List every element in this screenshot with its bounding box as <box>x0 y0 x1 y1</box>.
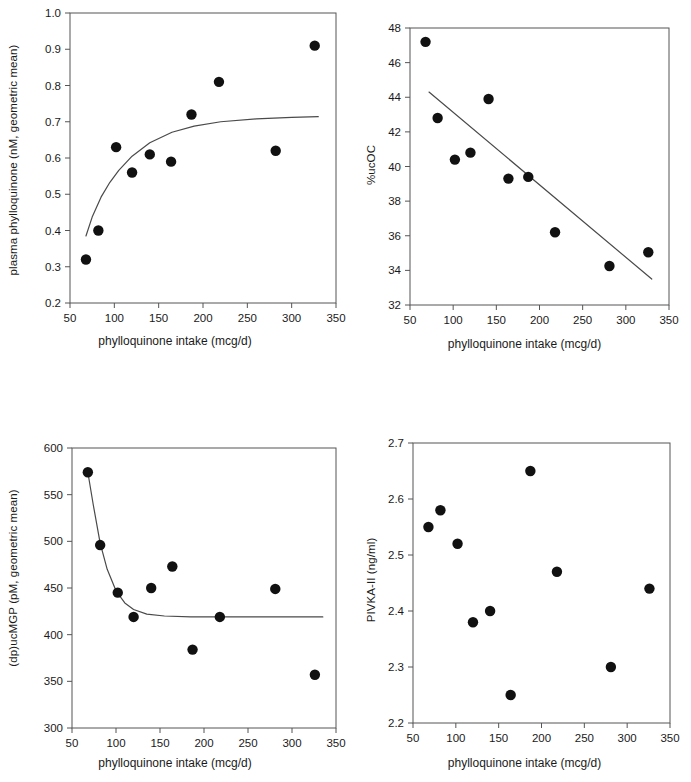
data-point <box>166 156 176 166</box>
panel-a-plot: 501001502002503003500.20.30.40.50.60.70.… <box>0 0 350 330</box>
panel-b-xtick-label: 350 <box>659 314 678 326</box>
panel-d-ytick-label: 2.7 <box>388 437 404 449</box>
panel-d-ytick-label: 2.5 <box>388 549 404 561</box>
panel-c-ylabel: (dp)ucMGP (pM, geometric mean) <box>7 489 19 666</box>
data-point <box>644 583 654 593</box>
panel-c-fit-curve <box>88 472 323 617</box>
panel-b-ytick-label: 46 <box>388 57 401 69</box>
panel-b-ylabel-container: %ucOC <box>360 110 382 220</box>
data-point <box>452 539 462 549</box>
data-point <box>550 227 560 237</box>
panel-a-ytick-label: 0.9 <box>45 43 61 55</box>
data-point <box>483 94 493 104</box>
panel-a-ytick-label: 1.0 <box>45 7 61 19</box>
data-point <box>187 644 197 654</box>
panel-c-plot-frame <box>72 448 336 728</box>
panel-c-xtick-label: 200 <box>194 737 213 749</box>
panel-a-xlabel: phylloquinone intake (mcg/d) <box>0 334 350 348</box>
data-point <box>465 147 475 157</box>
panel-d-plot-frame <box>413 443 670 723</box>
data-point <box>113 587 123 597</box>
panel-a-ytick-label: 0.6 <box>45 152 61 164</box>
data-point <box>95 540 105 550</box>
data-point <box>643 247 653 257</box>
panel-a-xtick-label: 350 <box>326 312 345 324</box>
panel-b-fit-curve <box>429 92 652 279</box>
data-point <box>604 261 614 271</box>
data-point <box>215 612 225 622</box>
panel-c-plot: 5010015020025030035030035040045050055060… <box>0 420 350 752</box>
panel-c-ytick-label: 450 <box>44 582 63 594</box>
data-point <box>606 662 616 672</box>
panel-pivka-ii: PIVKA-II (ng/ml) 501001502002503003502.2… <box>358 420 691 782</box>
panel-c-xtick-label: 350 <box>326 737 345 749</box>
data-point <box>552 567 562 577</box>
panel-d-xtick-label: 50 <box>407 732 420 744</box>
panel-b-ytick-label: 48 <box>388 22 401 34</box>
panel-d-xtick-label: 300 <box>618 732 637 744</box>
panel-b-ytick-label: 44 <box>388 91 401 103</box>
panel-a-xtick-label: 250 <box>238 312 257 324</box>
panel-d-ytick-label: 2.3 <box>388 661 404 673</box>
panel-c-xtick-label: 300 <box>282 737 301 749</box>
panel-d-ylabel: PIVKA-II (ng/ml) <box>365 538 377 623</box>
data-point <box>523 172 533 182</box>
panel-a-ylabel-container: plasma phylloquinone (nM, geometric mean… <box>2 10 24 310</box>
panel-c-xtick-label: 250 <box>238 737 257 749</box>
panel-c-ytick-label: 600 <box>44 442 63 454</box>
panel-a-xtick-label: 200 <box>193 312 212 324</box>
data-point <box>435 505 445 515</box>
panel-c-xlabel: phylloquinone intake (mcg/d) <box>0 756 350 770</box>
panel-a-ylabel: plasma phylloquinone (nM, geometric mean… <box>7 44 19 275</box>
data-point <box>270 584 280 594</box>
data-point <box>420 37 430 47</box>
panel-d-ylabel-container: PIVKA-II (ng/ml) <box>360 480 382 680</box>
panel-d-xtick-label: 200 <box>532 732 551 744</box>
panel-c-ytick-label: 500 <box>44 535 63 547</box>
panel-a-ytick-label: 0.8 <box>45 80 61 92</box>
panel-b-xlabel: phylloquinone intake (mcg/d) <box>358 337 691 351</box>
panel-d-xtick-label: 250 <box>575 732 594 744</box>
panel-d-plot: 501001502002503003502.22.32.42.52.62.7 <box>358 420 691 752</box>
panel-a-xtick-label: 50 <box>64 312 77 324</box>
panel-d-ytick-label: 2.2 <box>388 717 404 729</box>
panel-b-ytick-label: 40 <box>388 161 401 173</box>
panel-b-xtick-label: 250 <box>573 314 592 326</box>
panel-a-plot-frame <box>70 13 336 303</box>
data-point <box>145 149 155 159</box>
panel-c-xtick-label: 100 <box>106 737 125 749</box>
panel-b-xtick-label: 150 <box>487 314 506 326</box>
data-point <box>128 612 138 622</box>
panel-b-ytick-label: 34 <box>388 264 401 276</box>
data-point <box>214 77 224 87</box>
panel-b-ytick-label: 32 <box>388 299 401 311</box>
data-point <box>127 167 137 177</box>
panel-d-xlabel: phylloquinone intake (mcg/d) <box>358 756 691 770</box>
data-point <box>310 670 320 680</box>
data-point <box>167 561 177 571</box>
data-point <box>310 40 320 50</box>
data-point <box>423 522 433 532</box>
panel-b-ytick-label: 42 <box>388 126 401 138</box>
data-point <box>111 142 121 152</box>
data-point <box>505 690 515 700</box>
data-point <box>146 583 156 593</box>
data-point <box>432 113 442 123</box>
four-panel-scatter-figure: plasma phylloquinone (nM, geometric mean… <box>0 0 691 782</box>
data-point <box>485 606 495 616</box>
panel-c-ytick-label: 550 <box>44 489 63 501</box>
panel-d-xtick-label: 350 <box>660 732 679 744</box>
data-point <box>93 225 103 235</box>
panel-a-xtick-label: 300 <box>282 312 301 324</box>
data-point <box>468 617 478 627</box>
panel-b-plot-frame <box>410 28 669 305</box>
panel-a-fit-curve <box>86 117 318 236</box>
panel-b-ytick-label: 36 <box>388 230 401 242</box>
panel-b-ylabel: %ucOC <box>365 145 377 185</box>
panel-b-xtick-label: 50 <box>404 314 417 326</box>
panel-c-ytick-label: 300 <box>44 722 63 734</box>
data-point <box>83 467 93 477</box>
panel-d-ytick-label: 2.4 <box>388 605 405 617</box>
panel-a-xtick-label: 150 <box>149 312 168 324</box>
panel-d-xtick-label: 100 <box>446 732 465 744</box>
